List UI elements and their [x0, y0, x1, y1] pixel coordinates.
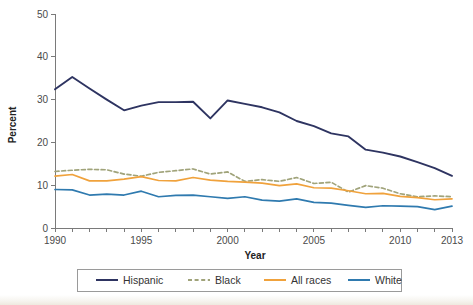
x-axis-title: Year	[244, 250, 265, 261]
axes	[55, 14, 452, 228]
series-line-hispanic	[55, 77, 452, 176]
y-axis-title: Percent	[7, 106, 18, 143]
line-chart: 01020304050 199019952000200520102013 Per…	[0, 0, 473, 305]
y-tick-label: 30	[37, 94, 49, 105]
chart-container: 01020304050 199019952000200520102013 Per…	[0, 0, 473, 305]
x-tick-label: 2005	[303, 235, 326, 246]
x-axis-ticks: 199019952000200520102013	[44, 228, 464, 246]
chart-legend: HispanicBlackAll racesWhite	[77, 269, 402, 291]
legend-label-white[interactable]: White	[375, 274, 402, 286]
y-tick-label: 0	[42, 223, 48, 234]
y-tick-label: 40	[37, 51, 49, 62]
x-tick-label: 1995	[130, 235, 153, 246]
x-tick-label: 1990	[44, 235, 67, 246]
y-tick-label: 50	[37, 9, 49, 20]
x-tick-label: 2013	[441, 235, 464, 246]
y-axis-ticks: 01020304050	[37, 9, 55, 234]
y-tick-label: 10	[37, 180, 49, 191]
y-tick-label: 20	[37, 137, 49, 148]
legend-label-hispanic[interactable]: Hispanic	[123, 274, 163, 286]
axis-lines	[55, 14, 452, 228]
legend-label-all-races[interactable]: All races	[291, 274, 331, 286]
series-line-all-races	[55, 175, 452, 200]
x-tick-label: 2010	[389, 235, 412, 246]
x-tick-label: 2000	[216, 235, 239, 246]
series-line-white	[55, 189, 452, 209]
legend-label-black[interactable]: Black	[215, 274, 241, 286]
series-lines	[55, 77, 452, 210]
